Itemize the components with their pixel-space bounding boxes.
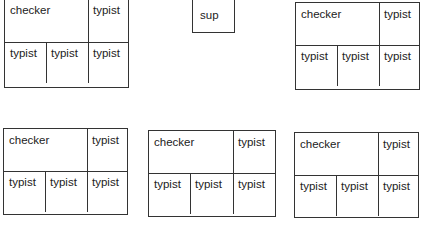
typist-cell: typist (379, 176, 418, 216)
typist-cell: typist (149, 174, 191, 214)
typist-cell: typist (88, 129, 127, 172)
typist-cell: typist (234, 131, 275, 174)
checker-cell: checker (4, 129, 88, 172)
typist-cell: typist (380, 46, 419, 86)
typist-cell: typist (379, 133, 418, 176)
supervisor-box: sup (192, 0, 235, 33)
typist-cell: typist (89, 0, 128, 43)
unit-5: checker typist typist typist typist (294, 132, 419, 218)
typist-cell: typist (4, 172, 46, 212)
typist-cell: typist (47, 43, 89, 83)
unit-1: checker typist typist typist typist (4, 0, 129, 88)
typist-cell: typist (296, 46, 338, 86)
checker-cell: checker (296, 3, 380, 46)
typist-cell: typist (337, 176, 379, 216)
typist-cell: typist (380, 3, 419, 46)
typist-cell: typist (191, 174, 234, 214)
typist-cell: typist (5, 43, 47, 83)
unit-3: checker typist typist typist typist (3, 128, 128, 215)
typist-cell: typist (338, 46, 380, 86)
typist-cell: typist (89, 43, 128, 83)
typist-cell: typist (295, 176, 337, 216)
unit-2: checker typist typist typist typist (295, 2, 420, 90)
unit-4: checker typist typist typist typist (148, 130, 276, 217)
typist-cell: typist (46, 172, 88, 212)
checker-cell: checker (149, 131, 234, 174)
checker-cell: checker (295, 133, 379, 176)
checker-cell: checker (5, 0, 89, 43)
typist-cell: typist (88, 172, 127, 212)
typist-cell: typist (234, 174, 275, 214)
